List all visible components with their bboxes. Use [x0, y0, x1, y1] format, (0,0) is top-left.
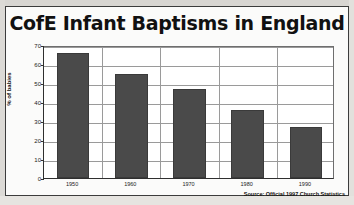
- y-tick-10: 10: [23, 157, 41, 163]
- y-tick-70: 70: [23, 43, 41, 49]
- y-axis-label: % of babies: [6, 63, 12, 115]
- y-tick-mark: [41, 122, 44, 123]
- x-tick-1960: 1960: [124, 181, 136, 187]
- plot-wrap: [43, 46, 334, 179]
- y-tick-mark: [41, 103, 44, 104]
- bar-1990: [290, 127, 323, 178]
- y-tick-mark: [41, 160, 44, 161]
- chart-figure: CofE Infant Baptisms in England % of bab…: [0, 0, 354, 205]
- x-tick-1950: 1950: [66, 181, 78, 187]
- y-tick-50: 50: [23, 81, 41, 87]
- x-axis-tick-labels: 19501960197019801990: [43, 181, 334, 191]
- y-tick-mark: [41, 46, 44, 47]
- y-tick-mark: [41, 65, 44, 66]
- y-tick-mark: [41, 179, 44, 180]
- bar-series: [44, 47, 333, 178]
- bar-1980: [231, 110, 264, 178]
- plot-area: [43, 46, 334, 179]
- y-tick-20: 20: [23, 138, 41, 144]
- bar-1950: [57, 53, 90, 178]
- x-tick-1970: 1970: [182, 181, 194, 187]
- x-tick-1980: 1980: [241, 181, 253, 187]
- source-note: Source: Official 1997 Church Statistics: [244, 191, 345, 197]
- y-tick-40: 40: [23, 100, 41, 106]
- y-axis-tick-labels: 010203040506070: [20, 46, 41, 179]
- bar-1960: [115, 74, 148, 179]
- y-tick-mark: [41, 84, 44, 85]
- y-tick-0: 0: [23, 176, 41, 182]
- bar-1970: [173, 89, 206, 178]
- y-tick-60: 60: [23, 62, 41, 68]
- x-tick-1990: 1990: [299, 181, 311, 187]
- scan-edge-bottom: [0, 196, 354, 205]
- y-tick-30: 30: [23, 119, 41, 125]
- y-tick-mark: [41, 141, 44, 142]
- chart-title: CofE Infant Baptisms in England: [0, 12, 354, 34]
